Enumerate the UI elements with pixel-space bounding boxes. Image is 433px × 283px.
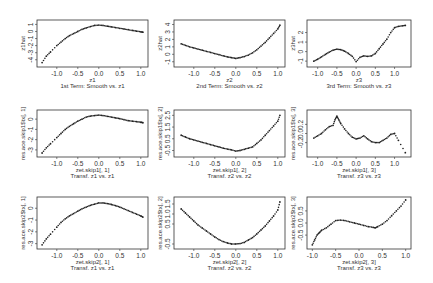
data-point [116,27,118,29]
data-point [245,148,247,150]
data-point [197,224,199,226]
data-point [256,233,258,235]
data-point [341,219,343,221]
data-point [313,241,315,243]
x-tick-label: 0.0 [94,252,103,259]
data-point [120,118,122,120]
data-point [346,220,348,222]
data-point [47,54,49,56]
scatter-panel: -1.0-0.50.00.51.0-0.50.51.52.5zet.skip1[… [157,106,285,179]
data-point [357,59,359,61]
data-point [386,38,388,40]
data-point [255,234,257,236]
data-point [344,128,346,130]
x-tick-label: -0.5 [331,70,343,77]
data-point [279,201,281,203]
x-tick-label: 0.0 [354,252,363,259]
data-point [259,47,261,49]
data-point [257,48,259,50]
x-tick-label: -1.0 [307,252,319,259]
data-point [116,205,118,207]
x-tick-label: -1.0 [51,252,63,259]
panel-title: Transf. z3 vs. z3 [337,173,381,179]
data-point [78,210,80,212]
data-point [400,205,402,207]
y-tick-label: -2 [27,136,34,142]
x-tick-label: -1.0 [51,160,63,167]
data-point [377,226,379,228]
y-tick-label: -4 [27,56,34,62]
data-point [218,54,220,56]
data-point [182,210,184,212]
data-point [91,25,93,27]
y-axis-label: res.ace.skip1$tx[, 1] [20,106,26,160]
data-point [106,115,108,117]
data-point [104,25,106,27]
data-point [236,57,238,59]
data-point [335,220,337,222]
data-point [207,51,209,53]
data-point [95,203,97,205]
y-tick-label: 2.5 [164,110,171,119]
data-point [186,214,188,216]
data-point [394,212,396,214]
data-point [137,121,139,123]
data-point [50,143,52,145]
data-point [213,235,215,237]
y-axis-label: z3hat [290,36,296,51]
data-point [391,215,393,217]
x-tick-label: 0.0 [231,160,240,167]
data-point [183,211,185,213]
data-point [62,40,64,42]
data-point [277,209,279,211]
scatter-panel: -1.0-0.50.00.51.0-3-2-10zet.skip1[, 1]Tr… [20,106,148,179]
data-point [392,29,394,31]
data-point [389,34,391,36]
data-point [211,144,213,146]
data-point [364,225,366,227]
data-point [228,149,230,151]
data-point [245,55,247,57]
data-point [129,120,131,122]
data-point [279,114,281,116]
y-tick-label: -1 [297,58,304,64]
data-point [73,123,75,125]
data-point [277,120,279,122]
data-point [57,44,59,46]
y-tick-label: 0 [164,52,171,56]
data-point [333,221,335,223]
data-point [211,234,213,236]
data-point [180,208,182,210]
data-point [241,149,243,151]
data-point [186,45,188,47]
panel-title: 3rd Term: Smooth vs. z3 [327,83,393,89]
data-point [366,225,368,227]
data-point [326,128,328,130]
data-point [41,152,43,154]
x-tick-label: 0.0 [352,70,361,77]
data-point [249,238,251,240]
scatter-panel: -1.0-0.50.00.51.0-0.50.51.01.5zet.skip2[… [157,196,285,271]
data-point [269,37,271,39]
data-point [346,131,348,133]
data-point [255,50,257,52]
data-point [67,127,69,129]
data-point [273,215,275,217]
y-tick-label: -0.5 [297,229,304,241]
data-point [269,220,271,222]
data-point [197,48,199,50]
y-tick-label: -3 [27,240,34,246]
data-point [60,222,62,224]
data-point [187,215,189,217]
x-tick-label: 1.0 [390,70,399,77]
data-point [338,219,340,221]
x-tick-label: 1.0 [390,160,399,167]
data-point [382,43,384,45]
data-point [119,118,121,120]
data-point [270,128,272,130]
data-point [95,25,97,27]
data-point [231,149,233,151]
data-point [266,133,268,135]
data-point [396,137,398,139]
x-tick-label: 1.0 [136,160,145,167]
